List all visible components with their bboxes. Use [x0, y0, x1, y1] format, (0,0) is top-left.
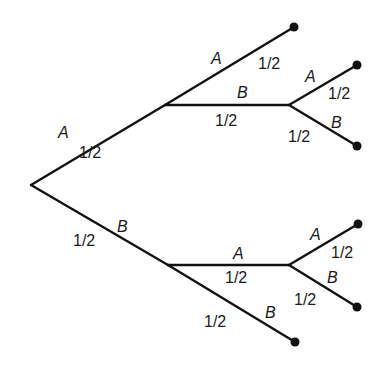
event-label: B — [331, 114, 342, 131]
event-label: A — [210, 50, 222, 67]
event-label: B — [117, 218, 128, 235]
probability-label: 1/2 — [73, 232, 95, 249]
event-label: B — [327, 269, 338, 286]
probability-label: 1/2 — [328, 85, 350, 102]
probability-label: 1/2 — [215, 112, 237, 129]
probability-label: 1/2 — [79, 144, 101, 161]
event-label: B — [265, 304, 276, 321]
probability-label: 1/2 — [204, 313, 226, 330]
leaf-dot-ABB — [353, 142, 362, 151]
probability-label: 1/2 — [258, 55, 280, 72]
leaf-dot-ABA — [353, 61, 362, 70]
probability-tree-diagram: A 1/2 B 1/2 A 1/2 B 1/2 A 1/2 B 1/2 A 1/… — [0, 0, 380, 372]
event-label: A — [309, 226, 321, 243]
event-label: A — [232, 245, 244, 262]
leaf-dot-BB — [291, 338, 300, 347]
probability-label: 1/2 — [225, 269, 247, 286]
event-label: A — [304, 68, 316, 85]
event-label: A — [57, 124, 69, 141]
leaf-dot-BAB — [353, 303, 362, 312]
probability-label: 1/2 — [288, 128, 310, 145]
probability-label: 1/2 — [294, 291, 316, 308]
leaf-dot-BAA — [354, 220, 363, 229]
probability-label: 1/2 — [331, 244, 353, 261]
event-label: B — [237, 84, 248, 101]
leaf-dot-AA — [290, 23, 299, 32]
edge-root-B — [31, 185, 168, 265]
